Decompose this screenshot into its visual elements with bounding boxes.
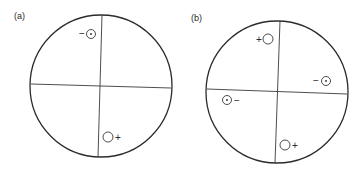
minus-pole-marker: − [223, 95, 241, 106]
plus-sign: + [115, 132, 121, 143]
minus-sign: − [234, 95, 240, 106]
panel-a: (a)−+ [14, 11, 172, 157]
plus-pole-marker: + [103, 132, 121, 143]
center-dot-icon [325, 80, 327, 82]
stereographic-projection-figure: (a)−+(b)+−−+ [0, 0, 360, 172]
panel-b: (b)+−−+ [191, 13, 348, 163]
projection-circle [206, 21, 348, 163]
center-dot-icon [226, 99, 228, 101]
panels-group: (a)−+(b)+−−+ [14, 11, 348, 163]
minus-sign: − [79, 28, 85, 39]
horizontal-axis [31, 84, 171, 88]
center-dot-icon [90, 33, 92, 35]
minus-sign: − [313, 75, 319, 86]
open-circle-icon [280, 140, 290, 150]
panel-label: (b) [191, 13, 202, 23]
horizontal-axis [207, 89, 347, 94]
panel-label: (a) [14, 11, 25, 21]
minus-pole-marker: − [79, 28, 96, 39]
plus-pole-marker: + [280, 140, 298, 151]
plus-sign: + [292, 140, 298, 151]
minus-pole-marker: − [313, 75, 331, 86]
plus-pole-marker: + [256, 34, 273, 45]
open-circle-icon [103, 132, 113, 142]
open-circle-icon [263, 34, 273, 44]
plus-sign: + [256, 34, 262, 45]
